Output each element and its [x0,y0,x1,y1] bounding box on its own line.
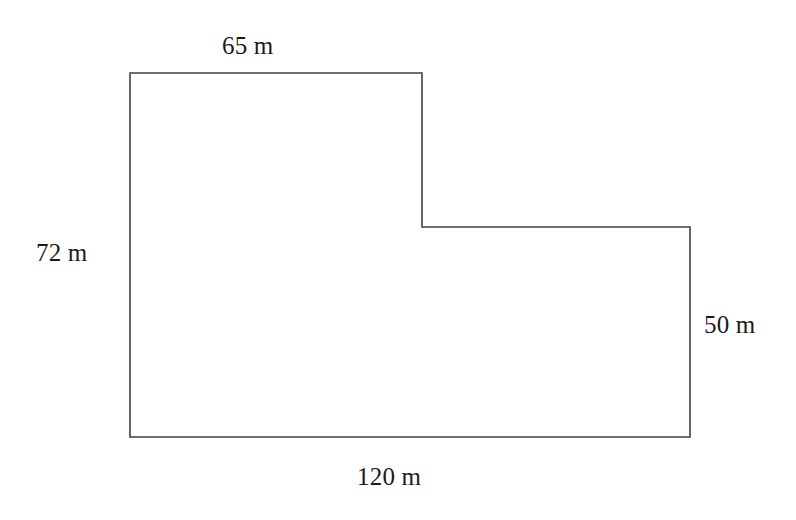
dimension-label-bottom: 120 m [357,464,421,489]
l-shaped-polygon-outline [130,73,690,437]
dimension-label-left: 72 m [36,240,88,265]
l-shaped-polygon-drawing [0,0,796,520]
dimension-label-top: 65 m [222,33,274,58]
figure-canvas: 65 m 72 m 50 m 120 m [0,0,796,520]
dimension-label-right: 50 m [704,312,756,337]
